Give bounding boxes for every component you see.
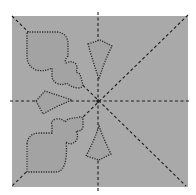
- fold-center-point: [96, 99, 100, 103]
- folded-paper-diagram: [0, 0, 196, 195]
